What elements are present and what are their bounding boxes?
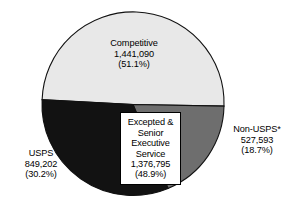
slice-label-usps-name: USPS: [2, 148, 80, 159]
slice-label-usps: USPS 849,202 (30.2%): [2, 148, 80, 180]
slice-label-competitive: Competitive 1,441,090 (51.1%): [84, 38, 184, 70]
callout-line-2: Senior: [138, 128, 164, 138]
slice-label-non-usps: Non-USPS* 527,593 (18.7%): [216, 124, 298, 156]
slice-label-competitive-value: 1,441,090: [84, 49, 184, 60]
slice-label-usps-percent: (30.2%): [2, 169, 80, 180]
callout-value: 1,376,795: [131, 159, 171, 169]
callout-line-3: Executive: [131, 138, 169, 148]
callout-line-1: Excepted &: [128, 117, 174, 127]
slice-label-non-usps-name: Non-USPS*: [216, 124, 298, 135]
callout-percent: (48.9%): [135, 169, 166, 179]
slice-label-competitive-name: Competitive: [84, 38, 184, 49]
pie-chart: Competitive 1,441,090 (51.1%) Non-USPS* …: [0, 0, 298, 209]
callout-excepted-senior-executive-service[interactable]: Excepted & Senior Executive Service 1,37…: [120, 112, 181, 185]
callout-line-4: Service: [136, 149, 166, 159]
slice-label-non-usps-value: 527,593: [216, 135, 298, 146]
slice-label-non-usps-percent: (18.7%): [216, 145, 298, 156]
slice-label-usps-value: 849,202: [2, 159, 80, 170]
slice-label-competitive-percent: (51.1%): [84, 59, 184, 70]
